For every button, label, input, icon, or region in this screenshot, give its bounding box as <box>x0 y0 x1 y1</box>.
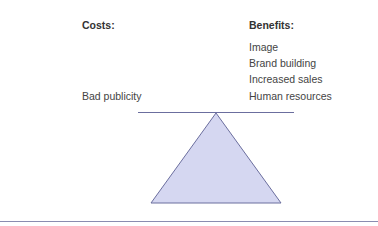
balance-scale-diagram <box>0 0 378 226</box>
fulcrum-triangle <box>151 113 281 203</box>
